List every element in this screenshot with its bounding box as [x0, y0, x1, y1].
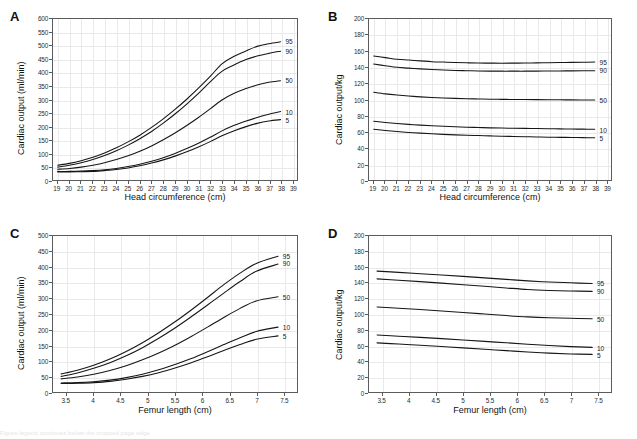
- panel-b-ytick-mark: [365, 165, 368, 166]
- panel-d: D Cardiac output/kg 02040608010012014016…: [318, 215, 637, 430]
- panel-a-ytick-label: 150: [30, 137, 48, 144]
- panel-b-ytick-label: 60: [346, 129, 364, 136]
- percentile-curve-95: [61, 256, 278, 374]
- panel-d-ytick-mark: [365, 282, 368, 283]
- percentile-label-50: 50: [597, 315, 604, 322]
- panel-b-xtick-mark: [455, 181, 456, 184]
- panel-a-xtick-mark: [199, 181, 200, 184]
- figure-container: A Cardiac output (ml/min) 05010015020025…: [0, 0, 637, 439]
- panel-a-ytick-mark: [49, 167, 52, 168]
- panel-a-xtick-mark: [187, 181, 188, 184]
- panel-a-ytick-label: 450: [30, 55, 48, 62]
- panel-b-xtick-mark: [560, 181, 561, 184]
- percentile-label-5: 5: [283, 333, 287, 340]
- panel-c-xtick-mark: [230, 393, 231, 396]
- percentile-curve-5: [377, 343, 592, 355]
- panel-d-xtick-mark: [409, 393, 410, 396]
- panel-d-plot-area: [368, 235, 612, 393]
- panel-b-xtick-mark: [549, 181, 550, 184]
- panel-a-xtick-mark: [222, 181, 223, 184]
- panel-a-ytick-label: 100: [30, 150, 48, 157]
- panel-d-ytick-mark: [365, 314, 368, 315]
- panel-c-plot-area: [52, 235, 298, 393]
- panel-d-ytick-mark: [365, 361, 368, 362]
- percentile-label-95: 95: [597, 280, 604, 287]
- panel-b-xtick-mark: [396, 181, 397, 184]
- percentile-curve-5: [58, 120, 281, 172]
- panel-b-xtick-mark: [467, 181, 468, 184]
- panel-d-xtick-label: 3.5: [377, 397, 385, 404]
- panel-a-xtick-label: 33: [219, 185, 226, 192]
- panel-b-ytick-mark: [365, 100, 368, 101]
- panel-a-xtick-mark: [258, 181, 259, 184]
- panel-a-ytick-label: 0: [30, 178, 48, 185]
- percentile-curve-90: [374, 64, 595, 71]
- panel-a-xtick-mark: [57, 181, 58, 184]
- panel-d-xtick-label: 7: [570, 397, 573, 404]
- panel-a-xtick-mark: [116, 181, 117, 184]
- panel-c-xtick-label: 7.5: [280, 397, 288, 404]
- panel-c-ytick-label: 450: [30, 247, 48, 254]
- panel-c-xtick-mark: [284, 393, 285, 396]
- panel-b-xtick-label: 29: [487, 185, 494, 192]
- percentile-label-10: 10: [597, 344, 604, 351]
- panel-d-ytick-label: 200: [346, 232, 364, 239]
- panel-a-xtick-mark: [293, 181, 294, 184]
- panel-c-ytick-mark: [49, 346, 52, 347]
- panel-b-xtick-mark: [420, 181, 421, 184]
- panel-a-xtick-label: 31: [195, 185, 202, 192]
- panel-a-ytick-mark: [49, 140, 52, 141]
- panel-d-ytick-label: 180: [346, 247, 364, 254]
- panel-b-xtick-label: 20: [381, 185, 388, 192]
- panel-d-xtick-mark: [490, 393, 491, 396]
- panel-b-ytick-mark: [365, 18, 368, 19]
- panel-b-xtick-label: 23: [416, 185, 423, 192]
- panel-d-xtick-label: 6.5: [540, 397, 548, 404]
- panel-c-x-axis-label: Femur length (cm): [52, 405, 298, 415]
- panel-b-xtick-label: 32: [522, 185, 529, 192]
- panel-c-ytick-label: 0: [30, 390, 48, 397]
- panel-c-xtick-label: 3.5: [62, 397, 70, 404]
- panel-c-ytick-mark: [49, 298, 52, 299]
- panel-c-xtick-label: 7: [255, 397, 258, 404]
- panel-c-xtick-label: 5: [146, 397, 149, 404]
- panel-a-xtick-mark: [104, 181, 105, 184]
- panel-c-letter: C: [10, 227, 19, 240]
- percentile-curve-10: [58, 112, 281, 172]
- panel-a-ytick-mark: [49, 181, 52, 182]
- panel-c-y-axis-label: Cardiac output (ml/min): [16, 276, 26, 370]
- panel-a-xtick-label: 26: [136, 185, 143, 192]
- panel-b-ytick-mark: [365, 116, 368, 117]
- panel-a-xtick-mark: [234, 181, 235, 184]
- panel-c-ytick-label: 200: [30, 326, 48, 333]
- percentile-curve-95: [377, 271, 592, 283]
- percentile-curve-5: [61, 336, 278, 384]
- panel-d-ytick-mark: [365, 251, 368, 252]
- panel-a-ytick-mark: [49, 32, 52, 33]
- panel-a-ytick-label: 300: [30, 96, 48, 103]
- percentile-label-95: 95: [285, 38, 292, 45]
- percentile-curve-50: [377, 307, 592, 319]
- panel-b-xtick-mark: [373, 181, 374, 184]
- panel-a-ytick-label: 500: [30, 42, 48, 49]
- panel-d-ytick-label: 160: [346, 263, 364, 270]
- panel-b-xtick-mark: [572, 181, 573, 184]
- panel-b-xtick-mark: [584, 181, 585, 184]
- panel-c-ytick-mark: [49, 314, 52, 315]
- panel-b-ytick-mark: [365, 67, 368, 68]
- panel-c-xtick-mark: [175, 393, 176, 396]
- panel-d-letter: D: [328, 227, 337, 240]
- percentile-curve-90: [58, 51, 281, 167]
- panel-b-letter: B: [328, 10, 337, 23]
- panel-b-ytick-label: 160: [346, 47, 364, 54]
- panel-a-ytick-label: 350: [30, 82, 48, 89]
- panel-b-ytick-mark: [365, 132, 368, 133]
- panel-b-ytick-label: 20: [346, 161, 364, 168]
- panel-b-xtick-label: 28: [475, 185, 482, 192]
- panel-b-xtick-mark: [443, 181, 444, 184]
- panel-b-xtick-label: 31: [510, 185, 517, 192]
- percentile-label-90: 90: [283, 260, 290, 267]
- percentile-label-5: 5: [285, 116, 289, 123]
- panel-c-ytick-mark: [49, 251, 52, 252]
- panel-c-xtick-label: 4: [91, 397, 94, 404]
